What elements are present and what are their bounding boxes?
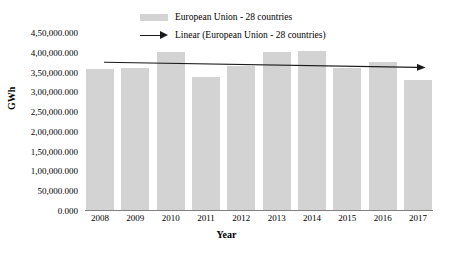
bar-slot	[85, 33, 115, 210]
legend-swatch-icon	[140, 14, 168, 21]
x-axis-tick-label: 2009	[120, 213, 150, 223]
x-axis-tick-label: 2011	[191, 213, 221, 223]
bar-slot	[120, 33, 150, 210]
bar-slot	[156, 33, 186, 210]
y-axis-title: GWh	[6, 87, 17, 110]
bar-slot	[226, 33, 256, 210]
bar-2008[interactable]	[86, 69, 114, 210]
bar-2015[interactable]	[333, 68, 361, 210]
x-axis-labels: 2008200920102011201220132014201520162017	[85, 213, 433, 223]
bar-slot	[297, 33, 327, 210]
y-axis-tick-label: 4,50,000.000	[31, 28, 78, 38]
y-axis: 0.00050,000.0001,00,000.0001,50,000.0002…	[0, 33, 82, 211]
bar-2013[interactable]	[263, 52, 291, 210]
y-axis-tick-label: 50,000.000	[38, 186, 79, 196]
x-axis-tick-label: 2013	[262, 213, 292, 223]
y-axis-tick-label: 4,00,000.000	[31, 48, 78, 58]
bar-group	[85, 33, 433, 210]
bar-2012[interactable]	[227, 66, 255, 210]
bar-2016[interactable]	[369, 62, 397, 210]
bar-2011[interactable]	[192, 77, 220, 210]
chart-container: European Union - 28 countries Linear (Eu…	[0, 0, 453, 253]
bar-slot	[332, 33, 362, 210]
plot-area	[85, 33, 433, 211]
x-axis-tick-label: 2014	[297, 213, 327, 223]
y-axis-tick-label: 1,00,000.000	[31, 166, 78, 176]
legend-label-series: European Union - 28 countries	[175, 12, 292, 22]
x-axis-line	[85, 210, 433, 211]
bar-slot	[191, 33, 221, 210]
bar-2009[interactable]	[121, 68, 149, 210]
bar-2010[interactable]	[157, 52, 185, 210]
y-axis-tick-label: 1,50,000.000	[31, 147, 78, 157]
y-axis-tick-label: 2,00,000.000	[31, 127, 78, 137]
y-axis-tick-label: 2,50,000.000	[31, 107, 78, 117]
bar-2017[interactable]	[404, 80, 432, 210]
bar-slot	[262, 33, 292, 210]
y-axis-tick-label: 3,50,000.000	[31, 68, 78, 78]
x-axis-tick-label: 2015	[332, 213, 362, 223]
x-axis-tick-label: 2012	[226, 213, 256, 223]
x-axis-tick-label: 2016	[368, 213, 398, 223]
bar-slot	[368, 33, 398, 210]
bar-2014[interactable]	[298, 51, 326, 210]
x-axis-title: Year	[0, 229, 453, 240]
x-axis-tick-label: 2017	[403, 213, 433, 223]
x-axis-tick-label: 2008	[85, 213, 115, 223]
x-axis-tick-label: 2010	[156, 213, 186, 223]
y-axis-tick-label: 0.000	[58, 206, 78, 216]
y-axis-tick-label: 3,00,000.000	[31, 87, 78, 97]
bar-slot	[403, 33, 433, 210]
legend-item-series[interactable]: European Union - 28 countries	[140, 10, 400, 24]
